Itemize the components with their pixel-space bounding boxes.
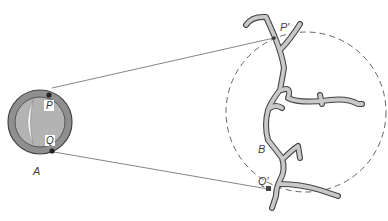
label-p: P <box>46 100 53 111</box>
label-q: Q <box>46 135 54 146</box>
label-q-prime: Q′ <box>258 175 270 187</box>
magnified-dashed-circle <box>226 32 386 192</box>
small-circle-a <box>8 90 72 154</box>
label-a: A <box>32 165 40 177</box>
projection-line-top <box>52 38 274 88</box>
point-q-marker <box>49 148 54 153</box>
point-p-prime-marker <box>272 36 276 40</box>
projection-line-bottom <box>54 152 268 189</box>
label-p-prime: P′ <box>280 21 290 33</box>
label-b: B <box>258 143 265 155</box>
diagram-canvas: P Q A P′ Q′ B <box>0 0 388 221</box>
point-p-marker <box>46 92 51 97</box>
